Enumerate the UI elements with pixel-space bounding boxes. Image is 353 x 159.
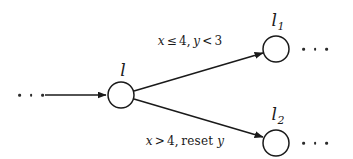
state-label-l-text: l: [120, 60, 125, 80]
ellipsis-dot: [314, 142, 317, 145]
guard-upper-token-2: 4: [179, 34, 187, 48]
edge-l-to-l2: [134, 99, 263, 137]
state-label-l: l: [120, 62, 125, 79]
ellipsis-dot: [18, 94, 21, 97]
edge-l-to-l1: [134, 53, 263, 91]
guard-upper-token-3: ,: [187, 34, 191, 48]
guard-upper-token-1: ≤: [167, 34, 177, 48]
guard-upper-token-0: x: [158, 34, 165, 48]
guard-lower-token-4: reset: [181, 134, 213, 148]
ellipsis-dot: [302, 142, 305, 145]
ellipsis-right-lower: [302, 142, 328, 145]
guard-upper-token-4: y: [193, 34, 200, 48]
ellipsis-left: [18, 94, 44, 97]
guard-label-lower: x>4,reset y: [146, 135, 225, 147]
state-node-l1: [263, 36, 289, 62]
ellipsis-right-upper: [302, 48, 328, 51]
state-label-l1-subscript: 1: [277, 20, 284, 33]
guard-lower-token-2: 4: [167, 134, 175, 148]
ellipsis-dot: [314, 48, 317, 51]
ellipsis-dot: [325, 142, 328, 145]
ellipsis-dot: [325, 48, 328, 51]
state-label-l1-text: l: [272, 10, 277, 30]
ellipsis-dot: [30, 94, 33, 97]
state-label-l1: l1: [272, 12, 285, 32]
state-label-l2-text: l: [272, 104, 277, 124]
guard-lower-token-5: y: [213, 134, 224, 148]
ellipsis-dot: [41, 94, 44, 97]
guard-lower-token-0: x: [146, 134, 153, 148]
state-label-l2-subscript: 2: [277, 114, 284, 127]
guard-lower-token-1: >: [155, 134, 165, 148]
guard-lower-token-3: ,: [175, 134, 179, 148]
guard-upper-token-6: 3: [215, 34, 223, 48]
state-node-l: [108, 82, 134, 108]
transition-diagram-figure: l l1 l2 x≤4,y<3 x>4,reset y: [0, 0, 353, 159]
ellipsis-dot: [302, 48, 305, 51]
state-node-l2: [263, 130, 289, 156]
state-label-l2: l2: [272, 106, 285, 126]
guard-label-upper: x≤4,y<3: [158, 35, 223, 47]
guard-upper-token-5: <: [202, 34, 212, 48]
